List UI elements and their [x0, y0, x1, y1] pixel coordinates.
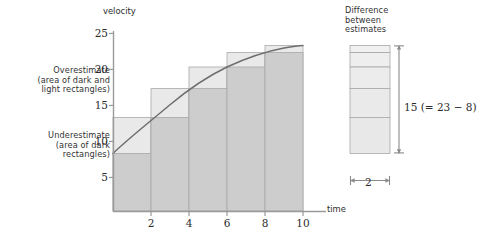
- x-tick-label-8: 8: [254, 217, 276, 229]
- difference-total-label: 15 (= 23 − 8): [404, 101, 477, 113]
- difference-panel-title: Difference between estimates: [345, 6, 415, 35]
- y-tick-label-5: 5: [86, 171, 108, 183]
- difference-height-arrow: [394, 45, 404, 153]
- y-tick-label-10: 10: [86, 135, 108, 147]
- x-tick-label-4: 4: [178, 217, 200, 229]
- y-axis-title: velocity: [103, 7, 136, 17]
- y-tick-label-15: 15: [86, 99, 108, 111]
- difference-stack: [350, 45, 390, 153]
- y-tick-label-20: 20: [86, 63, 108, 75]
- y-tick-label-25: 25: [86, 27, 108, 39]
- x-tick-label-6: 6: [216, 217, 238, 229]
- x-tick-label-10: 10: [292, 217, 314, 229]
- x-tick-label-2: 2: [140, 217, 162, 229]
- difference-width-label: 2: [365, 176, 372, 188]
- x-axis-title: time: [327, 205, 346, 215]
